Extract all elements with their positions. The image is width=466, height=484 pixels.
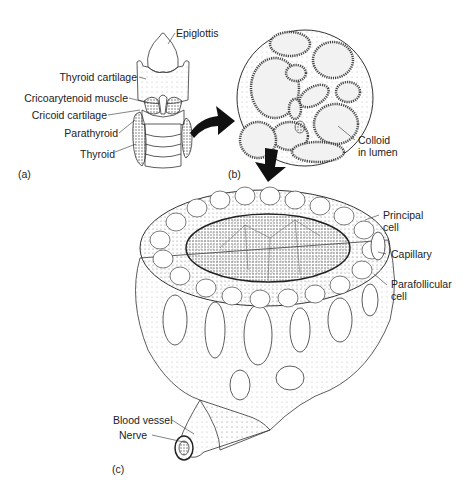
label-thyroid-cartilage: Thyroid cartilage: [50, 71, 137, 83]
label-blood-vessel: Blood vessel: [113, 414, 173, 426]
panel-label-a: (a): [18, 168, 31, 180]
label-nerve: Nerve: [119, 429, 147, 441]
arrow-a-to-b: [190, 106, 235, 138]
label-parathyroid: Parathyroid: [40, 127, 118, 139]
panel-label-b: (b): [228, 168, 241, 180]
larynx-drawing: [133, 33, 192, 168]
label-cricoid-cartilage: Cricoid cartilage: [20, 109, 107, 121]
panel-label-c: (c): [112, 463, 124, 475]
label-parafollicular-cell: cell: [391, 290, 407, 302]
follicle-micrograph: [237, 30, 373, 166]
label-epiglottis: Epiglottis: [176, 27, 219, 39]
label-principal-cell: cell: [383, 221, 399, 233]
label-colloid: Colloid: [358, 134, 390, 146]
label-principal: Principal: [383, 209, 423, 221]
label-cricoarytenoid-muscle: Cricoarytenoid muscle: [16, 92, 128, 104]
label-parafollicular: Parafollicular: [391, 278, 452, 290]
label-capillary: Capillary: [391, 248, 432, 260]
label-thyroid: Thyroid: [60, 148, 115, 160]
label-in-lumen: in lumen: [358, 146, 398, 158]
follicle-3d-drawing: [136, 187, 395, 460]
